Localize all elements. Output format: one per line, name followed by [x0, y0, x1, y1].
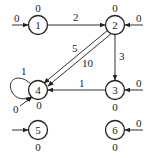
node-1: 1 0 [29, 2, 48, 35]
node-3: 3 0 [106, 81, 125, 114]
edge-4-4-self-loop [10, 78, 31, 99]
node-label-6: 6 [112, 124, 118, 136]
node-bottom-value-3: 0 [112, 101, 118, 113]
node-bottom-value-4: 0 [36, 99, 42, 111]
graph-diagram: 2 5 10 3 1 1 0 0 0 0 0 1 0 [0, 0, 155, 158]
node-top-value-2: 0 [112, 2, 118, 14]
node-6: 6 0 [106, 121, 125, 154]
edge-label-2-3: 3 [119, 50, 125, 62]
node-bottom-value-5: 0 [35, 141, 41, 153]
edge-label-1-2: 2 [73, 11, 79, 23]
input-label-3: 0 [136, 77, 142, 89]
node-5: 5 0 [29, 121, 48, 154]
node-top-value-1: 0 [35, 2, 41, 14]
input-label-6: 0 [136, 117, 142, 129]
node-4: 4 0 [29, 81, 48, 112]
input-label-2: 0 [136, 12, 142, 24]
edge-label-2-4-a: 5 [72, 42, 78, 54]
node-label-5: 5 [35, 124, 41, 136]
edge-label-4-4: 1 [21, 65, 27, 77]
node-label-2: 2 [112, 19, 118, 31]
node-label-1: 1 [35, 19, 41, 31]
node-label-4: 4 [35, 84, 41, 96]
input-label-4: 0 [13, 103, 19, 115]
node-bottom-value-6: 0 [112, 141, 118, 153]
edge-label-3-4: 1 [79, 77, 85, 89]
node-label-3: 3 [112, 84, 118, 96]
edge-label-2-4-b: 10 [82, 57, 94, 69]
input-label-1: 0 [14, 12, 20, 24]
edge-2-4-a [44, 30, 108, 83]
node-2: 2 0 [106, 2, 125, 35]
